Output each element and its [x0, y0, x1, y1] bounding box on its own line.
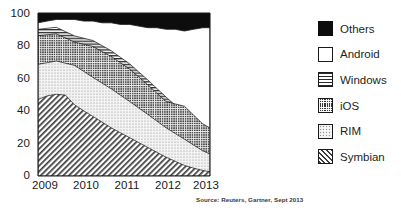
legend-item-rim: RIM: [318, 118, 401, 144]
legend-label-windows: Windows: [340, 74, 387, 86]
source-note: Source: Reuters, Gartner, Sept 2013: [196, 196, 303, 203]
chart-legend: Others Android Windows iOS RIM Symbian: [318, 16, 401, 170]
legend-swatch-rim-icon: [318, 124, 333, 139]
legend-label-ios: iOS: [340, 100, 359, 112]
legend-swatch-symbian-icon: [318, 149, 333, 164]
y-tick-100: 100: [4, 7, 30, 19]
legend-swatch-others-icon: [318, 21, 333, 36]
legend-label-rim: RIM: [340, 125, 361, 137]
x-tick-2010: 2010: [66, 179, 106, 191]
chart-figure: 100 80 60 40 20 0 2009 2010 2011 2012 20…: [0, 0, 401, 219]
legend-label-android: Android: [340, 48, 380, 60]
legend-swatch-windows-icon: [318, 72, 333, 87]
legend-label-others: Others: [340, 23, 375, 35]
y-tick-60: 60: [4, 72, 30, 84]
x-tick-2013: 2013: [186, 179, 226, 191]
legend-swatch-ios-icon: [318, 98, 333, 113]
legend-label-symbian: Symbian: [340, 151, 385, 163]
x-tick-2011: 2011: [107, 179, 147, 191]
legend-item-ios: iOS: [318, 93, 401, 119]
y-tick-20: 20: [4, 137, 30, 149]
legend-item-others: Others: [318, 16, 401, 42]
legend-item-android: Android: [318, 42, 401, 68]
legend-item-windows: Windows: [318, 67, 401, 93]
y-tick-40: 40: [4, 104, 30, 116]
legend-swatch-android-icon: [318, 47, 333, 62]
x-tick-2009: 2009: [25, 179, 65, 191]
y-tick-80: 80: [4, 39, 30, 51]
x-tick-2012: 2012: [148, 179, 188, 191]
legend-item-symbian: Symbian: [318, 144, 401, 170]
